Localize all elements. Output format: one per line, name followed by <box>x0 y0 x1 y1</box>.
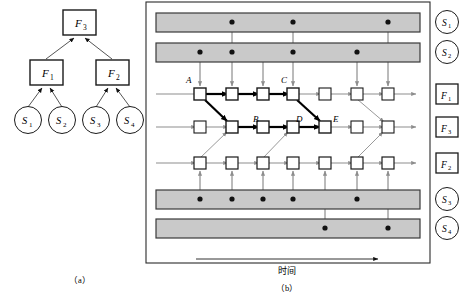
figure-root: F 3 F 1 F 2 S 1 S <box>0 0 470 301</box>
legend-f2: F 2 <box>436 153 458 173</box>
panel-a-caption: （a） <box>50 273 110 285</box>
panel-b-caption: （b） <box>257 281 317 293</box>
legend-f3: F 3 <box>436 117 458 137</box>
svg-text:S: S <box>442 18 447 28</box>
svg-text:2: 2 <box>448 164 451 171</box>
legend-s4: S 4 <box>436 217 459 240</box>
sensor-bar-s4 <box>156 219 420 238</box>
svg-text:1: 1 <box>448 22 451 29</box>
svg-text:F: F <box>440 124 447 134</box>
node-label-c: C <box>281 75 288 85</box>
panel-b: A B C D E S 1 S 2 F <box>0 0 470 265</box>
svg-text:3: 3 <box>448 128 451 135</box>
legend-s3: S 3 <box>436 188 459 211</box>
svg-text:F: F <box>440 91 447 101</box>
sensor-bar-s3 <box>156 190 420 209</box>
sensor-bar-s1 <box>156 13 420 32</box>
time-axis-label: 时间 <box>257 264 317 277</box>
svg-text:S: S <box>442 48 447 58</box>
svg-text:F: F <box>440 160 447 170</box>
sensor-bar-s2 <box>156 43 420 62</box>
node-label-b: B <box>253 114 259 124</box>
legend-f1: F 1 <box>436 84 458 104</box>
node-label-d: D <box>295 114 303 124</box>
node-label-e: E <box>332 114 339 124</box>
svg-text:1: 1 <box>448 95 451 102</box>
svg-text:2: 2 <box>448 52 451 59</box>
svg-text:S: S <box>442 224 447 234</box>
node-label-a: A <box>185 75 192 85</box>
legend-s1: S 1 <box>436 11 459 34</box>
svg-text:3: 3 <box>448 199 451 206</box>
panel-b-graph: A B C D E S 1 S 2 F <box>0 0 470 265</box>
legend-s2: S 2 <box>436 41 459 64</box>
svg-text:S: S <box>442 195 447 205</box>
